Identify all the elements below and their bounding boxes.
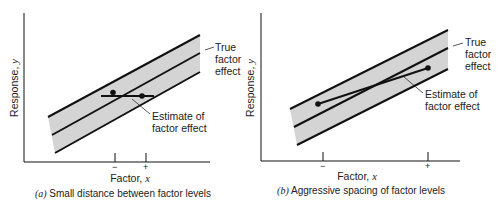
data-point-plus bbox=[425, 65, 431, 71]
panel-b: − + True factor effect Estimate of facto… bbox=[244, 13, 494, 197]
tick-plus-label: + bbox=[425, 161, 430, 171]
true-effect-label: True factor effect bbox=[215, 41, 244, 77]
true-effect-label: True factor effect bbox=[465, 36, 494, 72]
panel-a: − + True factor effect Estimate of facto… bbox=[8, 13, 244, 200]
y-axis-label: Response, y bbox=[8, 59, 20, 117]
data-point-minus bbox=[110, 90, 116, 96]
true-effect-leader bbox=[205, 47, 214, 50]
data-point-plus bbox=[139, 93, 145, 99]
estimate-label: Estimate of factor effect bbox=[425, 88, 480, 112]
caption-b: (b) Aggressive spacing of factor levels bbox=[277, 185, 445, 197]
data-point-minus bbox=[315, 101, 321, 107]
figure: − + True factor effect Estimate of facto… bbox=[0, 0, 502, 209]
caption-a: (a) Small distance between factor levels bbox=[35, 188, 211, 200]
x-axis-label: Factor, x bbox=[110, 172, 150, 184]
tick-minus-label: − bbox=[320, 161, 325, 171]
x-axis-label: Factor, x bbox=[337, 170, 377, 182]
y-axis-label: Response, y bbox=[244, 59, 256, 117]
tick-minus-label: − bbox=[112, 162, 117, 172]
true-effect-leader bbox=[453, 43, 463, 46]
estimate-label: Estimate of factor effect bbox=[152, 110, 207, 134]
tick-plus-label: + bbox=[143, 162, 148, 172]
